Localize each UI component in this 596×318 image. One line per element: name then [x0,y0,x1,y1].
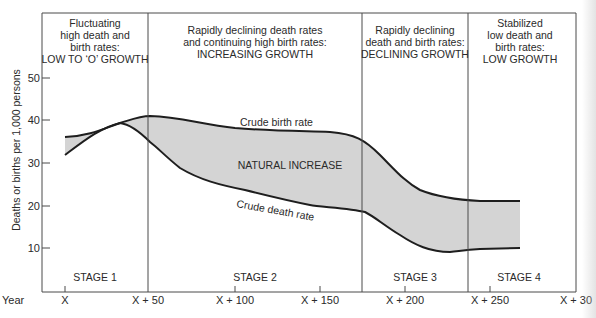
svg-text:Fluctuating: Fluctuating [69,17,121,29]
svg-text:low death and: low death and [487,29,553,41]
birth-rate-label: Crude birth rate [240,116,313,128]
natural-increase-area [65,116,520,252]
x-tick-0: X [61,294,69,306]
svg-text:birth rates:: birth rates: [495,41,545,53]
x-tick-50: X + 50 [132,294,164,306]
svg-text:INCREASING GROWTH: INCREASING GROWTH [197,48,313,60]
svg-text:DECLINING GROWTH: DECLINING GROWTH [361,48,469,60]
y-tick-10: 10 [28,242,40,254]
page-edge-shadow [582,0,596,318]
x-tick-250: X + 250 [471,294,509,306]
stage-3-heading: Rapidly declining death and birth rates:… [361,24,469,60]
y-tick-20: 20 [28,200,40,212]
x-tick-150: X + 150 [301,294,339,306]
svg-text:death and birth rates:: death and birth rates: [365,36,464,48]
svg-text:high death and: high death and [60,29,130,41]
x-tick-200: X + 200 [386,294,424,306]
stage-2-heading: Rapidly declining death rates and contin… [183,24,327,60]
y-axis-ticks [42,78,50,248]
stage-3-label: STAGE 3 [393,271,437,283]
stage-2-label: STAGE 2 [233,271,277,283]
stage-1-label: STAGE 1 [73,271,117,283]
y-tick-40: 40 [28,114,40,126]
svg-text:Rapidly declining: Rapidly declining [375,24,455,36]
stage-4-label: STAGE 4 [497,271,541,283]
svg-text:Stabilized: Stabilized [497,17,543,29]
svg-text:birth rates:: birth rates: [70,41,120,53]
y-tick-30: 30 [28,157,40,169]
x-axis-prefix: Year [2,294,25,306]
y-axis-title: Deaths or births per 1,000 persons [10,69,22,231]
x-tick-labels: Year X X + 50 X + 100 X + 150 X + 200 X … [2,294,592,306]
stage-labels: STAGE 1 STAGE 2 STAGE 3 STAGE 4 [73,271,541,283]
stage-1-heading: Fluctuating high death and birth rates: … [41,17,148,65]
svg-text:LOW TO ‘O’ GROWTH: LOW TO ‘O’ GROWTH [41,53,148,65]
y-tick-labels: 50 40 30 20 10 [28,72,40,254]
stage-4-heading: Stabilized low death and birth rates: LO… [483,17,558,65]
natural-increase-label: NATURAL INCREASE [238,159,342,171]
demographic-transition-chart: 50 40 30 20 10 Deaths or births per 1,00… [0,0,596,318]
x-tick-100: X + 100 [216,294,254,306]
y-tick-50: 50 [28,72,40,84]
svg-text:Rapidly declining death rates: Rapidly declining death rates [188,24,323,36]
x-axis-ticks [65,286,490,292]
svg-text:and continuing high birth rate: and continuing high birth rates: [183,36,327,48]
svg-text:LOW GROWTH: LOW GROWTH [483,53,558,65]
